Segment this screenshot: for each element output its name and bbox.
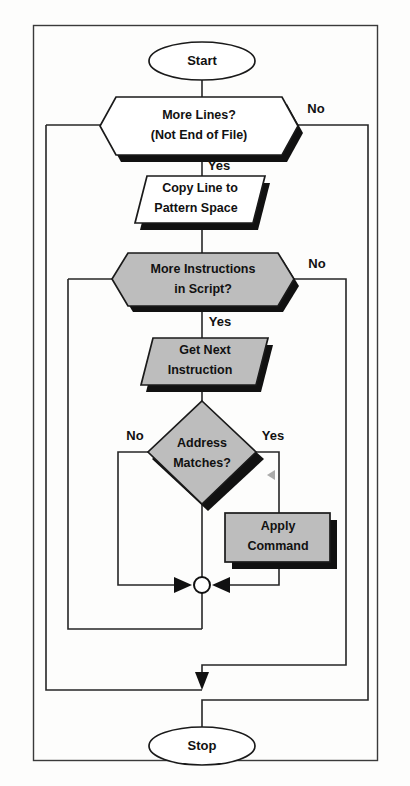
node-copy-line[interactable]: Copy Line to Pattern Space — [135, 176, 270, 230]
address-matches-label-line2: Matches? — [173, 456, 231, 470]
copy-line-label-line1: Copy Line to — [162, 181, 238, 195]
node-more-instructions[interactable]: More Instructions in Script? — [112, 253, 299, 312]
arrow-tick-yes-branch — [267, 470, 275, 480]
more-lines-label-line2: (Not End of File) — [151, 128, 248, 142]
edge-label-more-instructions-yes: Yes — [209, 314, 231, 329]
stop-label: Stop — [188, 738, 217, 753]
edge-label-address-yes: Yes — [262, 428, 284, 443]
flowchart-canvas: Start More Lines? (Not End of File) Copy… — [0, 0, 410, 786]
apply-command-label-line1: Apply — [261, 519, 296, 533]
more-instructions-label-line2: in Script? — [174, 282, 232, 296]
more-instructions-label-line1: More Instructions — [151, 262, 256, 276]
node-merge-point — [194, 577, 210, 593]
arrowhead-address-no-to-merge — [174, 577, 192, 593]
node-start[interactable]: Start — [149, 42, 255, 80]
edge-label-more-instructions-no: No — [308, 256, 325, 271]
copy-line-label-line2: Pattern Space — [154, 201, 237, 215]
node-stop[interactable]: Stop — [149, 727, 255, 765]
node-get-next-instruction[interactable]: Get Next Instruction — [141, 338, 273, 392]
more-lines-label-line1: More Lines? — [162, 108, 236, 122]
address-matches-label-line1: Address — [177, 436, 227, 450]
get-next-label-line2: Instruction — [168, 363, 233, 377]
node-address-matches[interactable]: Address Matches? — [148, 401, 264, 511]
edge-label-more-lines-yes: Yes — [208, 158, 230, 173]
more-instructions-hexagon — [112, 253, 294, 306]
address-matches-diamond — [148, 401, 256, 504]
node-apply-command[interactable]: Apply Command — [225, 513, 337, 569]
merge-circle — [194, 577, 210, 593]
node-more-lines[interactable]: More Lines? (Not End of File) — [100, 97, 303, 162]
arrowhead-more-instructions-no — [195, 672, 209, 690]
get-next-label-line1: Get Next — [179, 343, 231, 357]
apply-command-label-line2: Command — [247, 539, 308, 553]
more-lines-hexagon — [100, 97, 298, 155]
arrowhead-apply-to-merge — [212, 577, 230, 593]
start-label: Start — [187, 53, 217, 68]
edge-label-address-no: No — [126, 428, 143, 443]
flowchart-svg: Start More Lines? (Not End of File) Copy… — [0, 0, 410, 786]
edge-label-more-lines-no: No — [307, 101, 324, 116]
